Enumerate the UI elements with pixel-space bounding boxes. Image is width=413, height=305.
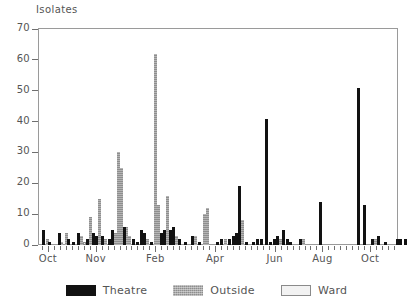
x-axis-tick: [245, 246, 246, 250]
bar-theatre: [48, 242, 51, 245]
bar-theatre: [282, 230, 285, 245]
x-axis-ticks: [39, 246, 397, 252]
x-axis-tick: [239, 246, 240, 250]
x-axis-tick: [358, 246, 359, 250]
x-axis-tick: [376, 246, 377, 250]
bar-theatre: [178, 239, 181, 245]
bar-outside: [146, 239, 149, 245]
bar-theatre: [163, 230, 166, 245]
bar-theatre: [404, 239, 407, 245]
x-axis-tick: [137, 246, 138, 250]
x-axis-tick: [227, 246, 228, 250]
bar-theatre: [143, 233, 146, 245]
x-axis-tick: [66, 246, 67, 250]
bar-theatre: [58, 233, 61, 245]
bar-theatre: [319, 202, 322, 245]
bar-theatre: [77, 233, 80, 245]
bar-theatre: [150, 242, 153, 245]
x-axis-tick: [60, 246, 61, 250]
x-axis-tick: [191, 246, 192, 250]
bar-outside: [128, 236, 131, 245]
x-axis-tick: [299, 246, 300, 250]
legend-item-theatre[interactable]: Theatre: [66, 284, 148, 297]
bar-theatre: [198, 242, 201, 245]
bar-theatre: [238, 186, 241, 245]
bar-outside: [175, 236, 178, 245]
bar-theatre: [228, 239, 231, 245]
legend-label: Outside: [210, 284, 255, 297]
legend-label: Ward: [318, 284, 347, 297]
bar-theatre: [132, 239, 135, 245]
x-axis-tick: [114, 246, 115, 250]
bar-theatre: [363, 205, 366, 245]
x-axis-tick: [90, 246, 91, 250]
x-axis-tick: [221, 246, 222, 250]
x-axis-tick: [233, 246, 234, 250]
bar-theatre: [289, 242, 292, 245]
x-axis-month-label: Feb: [146, 253, 165, 264]
bar-theatre: [108, 239, 111, 245]
x-axis-month-label: Oct: [39, 253, 57, 264]
x-axis-tick: [72, 246, 73, 250]
x-axis-tick: [120, 246, 121, 250]
x-axis-tick: [108, 246, 109, 250]
plot-area: [39, 29, 397, 245]
chart-title: Isolates: [36, 4, 78, 15]
bar-theatre: [252, 242, 255, 245]
x-axis-labels: OctNovFebAprJunAugOct: [0, 253, 413, 267]
bar-theatre: [216, 242, 219, 245]
y-axis-tick-label: 30: [0, 145, 30, 156]
x-axis-tick: [305, 246, 306, 250]
bar-theatre: [101, 236, 104, 245]
bar-theatre: [184, 242, 187, 245]
bar-outside: [224, 239, 227, 245]
y-axis-tick-label: 70: [0, 22, 30, 33]
x-axis-tick: [209, 246, 210, 250]
x-axis-tick: [322, 246, 323, 252]
x-axis-tick: [155, 246, 156, 252]
x-axis-tick: [167, 246, 168, 250]
bar-theatre: [269, 242, 272, 245]
bar-theatre: [111, 230, 114, 245]
x-axis-tick: [149, 246, 150, 250]
bar-ward: [83, 242, 86, 245]
legend-item-ward[interactable]: Ward: [281, 284, 347, 297]
bar-theatre: [136, 242, 139, 245]
x-axis-tick: [352, 246, 353, 250]
x-axis-tick: [275, 246, 276, 252]
x-axis-tick: [257, 246, 258, 250]
x-axis-tick: [263, 246, 264, 250]
x-axis-tick: [42, 246, 43, 250]
chart-legend: TheatreOutsideWard: [0, 279, 413, 301]
x-axis-month-label: Oct: [361, 253, 379, 264]
bar-theatre: [95, 236, 98, 245]
x-axis-tick: [251, 246, 252, 250]
bar-outside: [241, 220, 244, 245]
y-axis-tick-label: 0: [0, 238, 30, 249]
x-axis-month-label: Nov: [85, 253, 105, 264]
x-axis-tick: [394, 246, 395, 250]
y-axis-tick-label: 20: [0, 176, 30, 187]
x-axis-tick: [185, 246, 186, 250]
x-axis-tick: [96, 246, 97, 252]
y-axis-tick-label: 10: [0, 207, 30, 218]
x-axis-tick: [382, 246, 383, 250]
bar-theatre: [286, 239, 289, 245]
bar-theatre: [357, 88, 360, 245]
legend-swatch-outside-icon: [173, 285, 203, 296]
legend-label: Theatre: [103, 284, 148, 297]
x-axis-tick: [143, 246, 144, 250]
bar-theatre: [276, 236, 279, 245]
y-axis-tick-label: 40: [0, 115, 30, 126]
x-axis-tick: [54, 246, 55, 250]
legend-item-outside[interactable]: Outside: [173, 284, 255, 297]
bar-theatre: [299, 239, 302, 245]
x-axis-tick: [78, 246, 79, 250]
x-axis-tick: [131, 246, 132, 250]
x-axis-tick: [287, 246, 288, 250]
x-axis-tick: [173, 246, 174, 250]
bar-theatre: [384, 242, 387, 245]
y-axis-tick-label: 60: [0, 53, 30, 64]
bar-theatre: [256, 239, 259, 245]
bar-theatre: [377, 236, 380, 245]
